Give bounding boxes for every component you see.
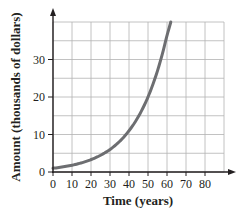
x-axis-ticks: 01020304050607080 [50,172,211,191]
x-tick-label: 60 [161,177,173,191]
x-tick-label: 40 [123,177,135,191]
exponential-growth-chart: 01020304050607080 0102030 Time (years) A… [0,0,244,221]
y-axis-title: Amount (thousands of dollars) [8,12,23,181]
x-tick-label: 30 [104,177,116,191]
x-tick-label: 0 [50,177,56,191]
x-tick-label: 50 [142,177,154,191]
x-tick-label: 10 [66,177,78,191]
x-tick-label: 80 [199,177,211,191]
grid-lines [53,22,224,172]
growth-curve [53,22,171,168]
y-tick-label: 20 [33,90,45,104]
growth-curve-line [53,22,171,168]
y-tick-label: 10 [33,128,45,142]
y-axis-ticks: 0102030 [33,53,53,180]
y-tick-label: 30 [33,53,45,67]
axes [50,8,236,175]
x-axis-arrow-icon [228,169,236,175]
y-tick-label: 0 [39,165,45,179]
y-axis-arrow-icon [50,8,56,16]
x-tick-label: 70 [180,177,192,191]
x-tick-label: 20 [85,177,97,191]
x-axis-title: Time (years) [103,193,173,208]
